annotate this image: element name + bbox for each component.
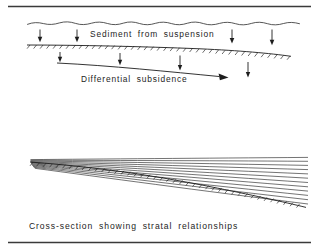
suspension-arrow	[38, 30, 43, 43]
subsidence-arrow	[58, 52, 62, 62]
suspension-arrow	[75, 30, 80, 43]
strata-line	[31, 161, 308, 165]
differential-subsidence-label: Differential subsidence	[81, 74, 188, 84]
suspension-arrow	[230, 30, 235, 44]
sediment-from-suspension-label: Sediment from suspension	[90, 29, 215, 39]
subsidence-arrow	[118, 53, 122, 65]
subsidence-arrow	[246, 62, 250, 77]
strata-fan	[31, 157, 309, 204]
figure-canvas: Sediment from suspension Differential su…	[0, 0, 319, 250]
sediment-bed-line	[27, 45, 291, 56]
suspension-arrow	[270, 30, 275, 46]
cross-section-panel: Cross-section showing stratal relationsh…	[29, 157, 308, 231]
cross-section-caption: Cross-section showing stratal relationsh…	[29, 221, 238, 231]
strata-line	[32, 166, 308, 192]
subsidence-arrow	[178, 56, 182, 71]
figure-root: Sediment from suspension Differential su…	[0, 0, 319, 250]
depositional-setting-panel: Sediment from suspension Differential su…	[27, 22, 300, 84]
strata-line	[31, 157, 309, 159]
water-surface-wavy-line	[28, 22, 300, 25]
strata-line	[31, 160, 309, 161]
